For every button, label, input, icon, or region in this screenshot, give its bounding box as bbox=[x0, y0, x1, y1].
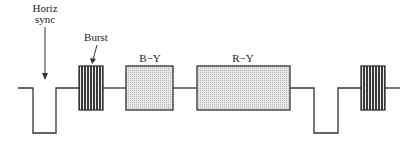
signal-waveform-second-sync bbox=[290, 88, 361, 133]
b-minus-y-block bbox=[126, 66, 173, 110]
burst-arrowhead-icon bbox=[90, 58, 96, 64]
r-minus-y-block bbox=[197, 66, 290, 110]
burst-block-2 bbox=[361, 66, 385, 110]
signal-waveform bbox=[18, 88, 79, 133]
r-minus-y-label: R−Y bbox=[232, 52, 254, 64]
horiz-sync-label-line2: sync bbox=[35, 13, 55, 25]
burst-block bbox=[79, 66, 103, 110]
video-signal-diagram: Horiz sync Burst B−Y R−Y bbox=[0, 0, 414, 144]
burst-label: Burst bbox=[84, 31, 108, 43]
burst-arrow bbox=[93, 45, 97, 60]
b-minus-y-label: B−Y bbox=[139, 52, 161, 64]
horiz-sync-arrowhead-icon bbox=[42, 73, 48, 80]
